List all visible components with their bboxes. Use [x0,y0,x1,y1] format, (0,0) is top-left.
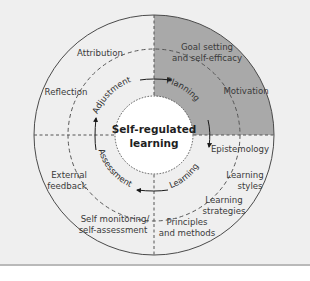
factor-motivation: Motivation [223,86,268,96]
factor-principles-line1: Principles [166,217,208,227]
factor-external-feedback-line2: feedback [47,181,87,191]
factor-self-monitoring-line1: Self monitoring/ [81,214,150,224]
factor-self-monitoring-line2: self-assessment [79,225,148,235]
factor-reflection: Reflection [45,87,88,97]
center-title-line1: Self-regulated [112,123,197,135]
factor-attribution: Attribution [77,48,123,58]
factor-learning-strategies-line2: strategies [203,206,246,216]
factor-learning-strategies-line1: Learning [205,195,242,205]
factor-learning-styles-line1: Learning [226,170,263,180]
arrow-assess-to-adjust [95,118,96,150]
factor-epistemology: Epistemology [211,144,269,154]
srl-cycle-diagram: Planning Learning Assessment Adjustment … [0,0,310,281]
factor-goal-setting-line1: Goal setting [181,42,233,52]
arrow-learn-to-assess [137,190,168,191]
factor-principles-line2: and methods [159,228,216,238]
factor-learning-styles-line2: styles [237,181,263,191]
factor-goal-setting-line2: and self-efficacy [172,53,242,63]
center-circle [115,96,193,174]
factor-external-feedback-line1: External [51,170,87,180]
center-title-line2: learning [129,137,178,149]
